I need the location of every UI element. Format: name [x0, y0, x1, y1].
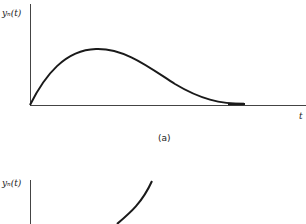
panel-a-caption: (a)	[158, 133, 171, 143]
diagram-canvas	[0, 0, 306, 224]
panel-a-y-label: yₙ(t)	[2, 8, 21, 18]
panel-b-y-label: yₙ(t)	[2, 178, 21, 188]
panel-a-x-label: t	[299, 111, 303, 121]
panel-a-curve	[30, 49, 245, 105]
panel-b-curve	[117, 181, 152, 224]
